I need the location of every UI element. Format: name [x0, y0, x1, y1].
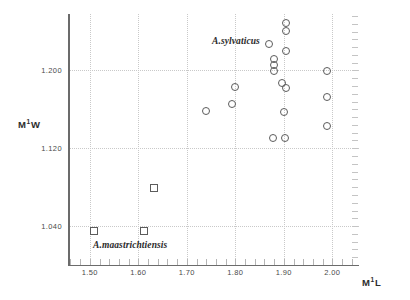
data-point-square: [90, 227, 98, 235]
data-point-circle: [269, 134, 277, 142]
minor-tick-y: [352, 257, 358, 258]
minor-tick-y: [352, 187, 358, 188]
minor-tick-y: [352, 148, 358, 149]
minor-tick-y: [352, 140, 358, 141]
minor-tick-y: [352, 195, 358, 196]
data-point-circle: [270, 67, 278, 75]
y-axis-spine: [68, 14, 70, 266]
x-tick-label: 1.60: [130, 268, 146, 277]
data-point-square: [140, 227, 148, 235]
x-axis-title-base: M: [362, 277, 370, 288]
y-axis-title: M1W: [18, 118, 40, 130]
x-axis-title: M1L: [362, 276, 381, 288]
minor-tick-y: [352, 133, 358, 134]
x-tick-label: 2.00: [324, 268, 340, 277]
minor-tick-y: [352, 203, 358, 204]
minor-tick-y: [352, 125, 358, 126]
minor-tick-y: [352, 32, 358, 33]
minor-tick-y: [352, 211, 358, 212]
minor-tick-y: [352, 179, 358, 180]
annotation-a-maastrichtiensis: A.maastrichtiensis: [93, 240, 167, 250]
minor-tick-y: [352, 164, 358, 165]
minor-tick-y: [352, 55, 358, 56]
minor-tick-y: [352, 218, 358, 219]
annotation-a-sylvaticus: A.sylvaticus: [212, 36, 260, 46]
data-point-square: [150, 184, 158, 192]
minor-tick-y: [352, 156, 358, 157]
minor-tick-y: [352, 86, 358, 87]
x-tick-label: 1.50: [82, 268, 98, 277]
minor-tick-y: [352, 234, 358, 235]
x-tick-label: 1.70: [179, 268, 195, 277]
minor-tick-y: [352, 226, 358, 227]
minor-tick-y: [352, 109, 358, 110]
x-tick-label: 1.80: [227, 268, 243, 277]
y-tick-label: 1.200: [41, 66, 62, 75]
minor-tick-y: [352, 78, 358, 79]
gridline-y-0: [68, 226, 359, 228]
minor-tick-y: [352, 117, 358, 118]
minor-tick-y: [352, 39, 358, 40]
scatter-plot-figure: 1.501.601.701.801.902.00 1.0401.1201.200…: [0, 0, 410, 300]
x-axis-title-superscript: 1: [370, 276, 374, 283]
data-point-circle: [265, 40, 273, 48]
minor-tick-y: [352, 63, 358, 64]
y-axis-title-superscript: 1: [26, 118, 30, 125]
gridline-y-2: [68, 70, 359, 72]
minor-tick-y: [352, 242, 358, 243]
minor-tick-y: [352, 24, 358, 25]
data-point-circle: [323, 93, 331, 101]
minor-tick-y: [352, 249, 358, 250]
minor-tick-y: [352, 16, 358, 17]
y-tick-label: 1.120: [41, 144, 62, 153]
y-axis-title-base: M: [18, 119, 26, 130]
x-axis-spine: [68, 265, 359, 266]
y-axis-title-tail: W: [31, 119, 40, 130]
minor-tick-y: [352, 172, 358, 173]
minor-tick-y: [352, 102, 358, 103]
x-tick-label: 1.90: [276, 268, 292, 277]
x-axis-title-tail: L: [375, 277, 381, 288]
minor-tick-y: [352, 47, 358, 48]
minor-tick-y: [352, 70, 358, 71]
data-point-circle: [228, 100, 236, 108]
gridline-y-1: [68, 148, 359, 150]
data-point-circle: [323, 122, 331, 130]
minor-tick-y: [352, 94, 358, 95]
y-tick-label: 1.040: [41, 222, 62, 231]
